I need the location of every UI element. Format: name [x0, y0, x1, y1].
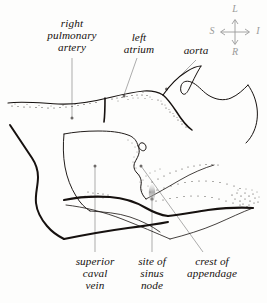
label-right-pulmonary-artery: right pulmonary artery	[30, 17, 114, 54]
aorta-contour	[163, 95, 192, 130]
stipple-shading	[11, 92, 259, 207]
figure-canvas: right pulmonary artery left atrium aorta…	[0, 0, 267, 303]
label-aorta: aorta	[172, 44, 220, 56]
leader-dot-superior-caval-vein	[94, 165, 97, 168]
stipple-appendage-cluster	[231, 189, 259, 206]
leader-dot-right-pulmonary-artery	[71, 117, 74, 120]
aortic-upper-curve	[163, 66, 201, 95]
caval-vein-left-wall	[10, 125, 64, 239]
stipple-pectinate-arc-2	[150, 181, 241, 193]
label-superior-caval-vein: superior caval vein	[56, 255, 134, 292]
anatomy-outlines	[8, 66, 257, 239]
atrial-roof-contour	[8, 91, 163, 104]
stipple-aortic-margin	[158, 100, 187, 128]
atrial-endocardium-contour	[64, 131, 138, 146]
stipple-left-atrium	[111, 92, 152, 101]
compass-label-superior: L	[229, 3, 241, 14]
appendage-thin-contour	[146, 165, 214, 199]
septal-marker-stroke	[104, 98, 105, 122]
right-lateral-contour	[246, 85, 257, 143]
leader-crest-of-appendage	[141, 166, 203, 252]
lower-right-thick-contour	[168, 208, 253, 216]
caval-vein-thin-contour-b	[66, 205, 170, 239]
leader-lines	[72, 58, 203, 252]
leader-left-atrium	[124, 58, 137, 95]
label-left-atrium: left atrium	[110, 31, 168, 55]
pericardial-reflection-contour	[181, 66, 248, 100]
leader-dot-crest-of-appendage	[140, 165, 143, 168]
orientation-compass-arrows	[221, 20, 250, 45]
sinus-node-marker	[149, 184, 155, 202]
label-crest-of-appendage: crest of appendage	[168, 255, 256, 279]
compass-label-inferior: R	[229, 46, 241, 57]
compass-label-left: S	[206, 25, 218, 36]
compass-label-right: I	[252, 25, 264, 36]
